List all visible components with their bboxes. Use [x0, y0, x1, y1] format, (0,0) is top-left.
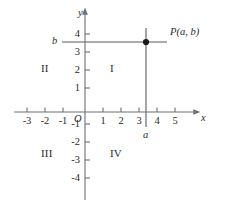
quadrant-label-iv: IV	[110, 148, 122, 159]
coordinate-plane-figure: -3 -2 -1 1 2 3 4 5 4 3 2 1 -1 -2 -3 -4 y…	[0, 0, 230, 206]
y-tick-label-2: 2	[70, 65, 80, 76]
y-axis-label: y	[78, 8, 83, 19]
y-tick-label-3: 3	[70, 47, 80, 58]
origin-label: O	[74, 114, 82, 125]
x-tick-label--3: -3	[21, 116, 33, 127]
x-tick-label-1: 1	[99, 116, 107, 127]
x-tick-label-2: 2	[117, 116, 125, 127]
y-coordinate-guide-label-b: b	[52, 36, 57, 47]
x-axis-ticks	[27, 108, 175, 113]
y-tick-label-1: 1	[70, 83, 80, 94]
y-tick-label--3: -3	[66, 155, 80, 166]
quadrant-label-iii: III	[41, 148, 53, 159]
x-coordinate-guide-label-a: a	[143, 130, 148, 141]
y-axis-ticks	[85, 34, 90, 178]
x-tick-label-5: 5	[171, 116, 179, 127]
y-tick-label--2: -2	[66, 137, 80, 148]
y-tick-label-4: 4	[70, 29, 80, 40]
x-tick-label-3: 3	[135, 116, 143, 127]
x-tick-label-4: 4	[153, 116, 161, 127]
x-tick-label--2: -2	[39, 116, 51, 127]
point-p-label: P(a, b)	[170, 27, 199, 38]
x-axis	[14, 108, 194, 113]
point-p-marker	[143, 39, 149, 45]
quadrant-label-ii: II	[41, 63, 49, 74]
y-tick-label--4: -4	[66, 173, 80, 184]
quadrant-label-i: I	[110, 63, 114, 74]
x-axis-label: x	[201, 113, 206, 124]
